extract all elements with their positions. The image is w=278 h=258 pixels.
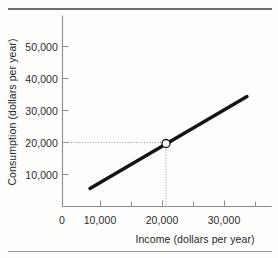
x-tick-label-20000: 20,000 <box>146 214 179 226</box>
y-tick-label-10000: 10,000 <box>25 169 58 181</box>
y-axis-ticks <box>63 47 69 175</box>
y-axis-title: Consumption (dollars per year) <box>6 38 18 185</box>
y-tick-label-30000: 30,000 <box>25 105 58 117</box>
x-tick-label-0: 0 <box>59 214 65 226</box>
y-tick-label-40000: 40,000 <box>25 73 58 85</box>
x-axis-title: Income (dollars per year) <box>135 233 254 245</box>
x-tick-label-10000: 10,000 <box>84 214 117 226</box>
x-axis-tick-labels: 0 10,000 20,000 30,000 <box>59 214 240 226</box>
x-tick-label-30000: 30,000 <box>208 214 241 226</box>
y-tick-label-20000: 20,000 <box>25 137 58 149</box>
y-axis-tick-labels: 50,000 40,000 30,000 20,000 10,000 <box>25 41 58 181</box>
axis-spines <box>63 16 272 207</box>
equilibrium-point-marker <box>162 140 170 148</box>
y-tick-label-50000: 50,000 <box>25 41 58 53</box>
x-axis-ticks <box>101 201 256 207</box>
consumption-function-chart: 50,000 40,000 30,000 20,000 10,000 0 10,… <box>0 0 278 258</box>
figure-container: 50,000 40,000 30,000 20,000 10,000 0 10,… <box>0 0 278 258</box>
